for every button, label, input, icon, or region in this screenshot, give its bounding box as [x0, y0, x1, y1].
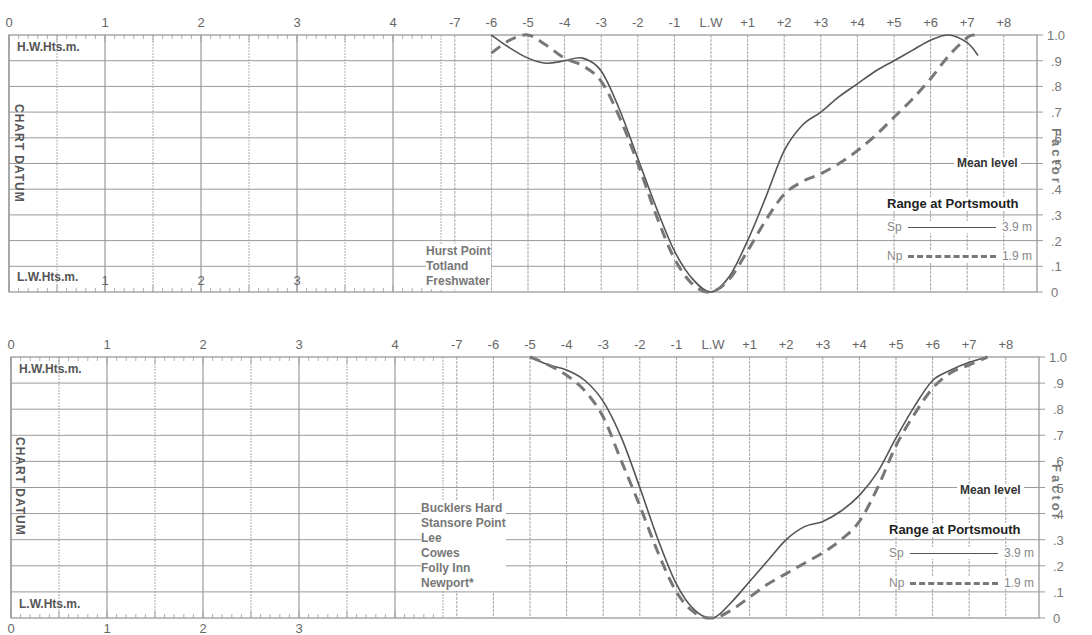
hour-tick-label: +5 — [887, 16, 902, 29]
hour-tick-label: L.W — [701, 338, 724, 351]
legend-np: Np 1.9 m — [887, 250, 1032, 262]
hw-height-tick-label: 1 — [101, 16, 108, 29]
legend-np-label: Np — [887, 250, 902, 262]
port-name: Totland — [426, 259, 491, 274]
hour-tick-label: +1 — [742, 338, 757, 351]
hour-tick-label: +4 — [852, 338, 867, 351]
factor-tick-label: 0 — [1051, 286, 1058, 299]
hour-tick-label: +5 — [889, 338, 904, 351]
factor-tick-label: .8 — [1051, 80, 1062, 93]
factor-tick-label: .7 — [1051, 106, 1062, 119]
factor-tick-label: 1.0 — [1049, 351, 1067, 364]
dashed-line-swatch — [908, 255, 996, 258]
solid-line-swatch — [910, 553, 998, 554]
hour-tick-label: +8 — [996, 16, 1011, 29]
hour-tick-label: -1 — [669, 16, 681, 29]
factor-axis-label: Factor — [1049, 128, 1064, 186]
hw-height-tick-label: 0 — [7, 338, 14, 351]
hw-height-tick-label: 2 — [197, 16, 204, 29]
hour-tick-label: -6 — [488, 338, 500, 351]
hour-tick-label: -4 — [561, 338, 573, 351]
factor-tick-label: .2 — [1051, 234, 1062, 247]
factor-tick-label: .9 — [1051, 54, 1062, 67]
port-list: Bucklers Hard Stansore Point Lee Cowes F… — [421, 501, 506, 591]
factor-tick-label: .2 — [1053, 559, 1064, 572]
hw-height-tick-label: 1 — [103, 338, 110, 351]
port-name: Folly Inn — [421, 561, 506, 576]
hour-tick-label: -4 — [559, 16, 571, 29]
legend-sp-value: 3.9 m — [1004, 547, 1034, 559]
lw-height-tick-label: 3 — [293, 274, 300, 287]
hour-tick-label: +6 — [923, 16, 938, 29]
hour-tick-label: +7 — [960, 16, 975, 29]
hour-tick-label: -5 — [522, 16, 534, 29]
port-name: Bucklers Hard — [421, 501, 506, 516]
hw-height-tick-label: 4 — [389, 16, 396, 29]
lw-height-tick-label: 2 — [199, 622, 206, 635]
hour-tick-label: +2 — [779, 338, 794, 351]
factor-tick-label: .9 — [1053, 377, 1064, 390]
hour-tick-label: -7 — [451, 338, 463, 351]
tidal-curve-chart-top: 0.1.2.3.4.5.6.7.8.91.0-7-6-5-4-3-2-1L.W+… — [0, 0, 1092, 320]
port-name: Cowes — [421, 546, 506, 561]
port-name: Hurst Point — [426, 244, 491, 259]
hw-height-tick-label: 2 — [199, 338, 206, 351]
legend-np-value: 1.9 m — [1004, 577, 1034, 589]
hour-tick-label: +6 — [925, 338, 940, 351]
hour-tick-label: -2 — [632, 16, 644, 29]
legend-np-value: 1.9 m — [1002, 250, 1032, 262]
lw-heights-label: L.W.Hts.m. — [19, 598, 80, 610]
factor-tick-label: 0 — [1053, 612, 1060, 625]
hour-tick-label: +4 — [850, 16, 865, 29]
lw-height-tick-label: 0 — [7, 622, 14, 635]
hour-tick-label: +1 — [740, 16, 755, 29]
legend-sp-value: 3.9 m — [1002, 221, 1032, 233]
hour-tick-label: -1 — [671, 338, 683, 351]
lw-height-tick-label: 2 — [197, 274, 204, 287]
hour-tick-label: -3 — [597, 338, 609, 351]
mean-level-label: Mean level — [957, 484, 1024, 496]
tidal-curve-chart-bottom: 0.1.2.3.4.5.6.7.8.91.0-7-6-5-4-3-2-1L.W+… — [0, 320, 1092, 635]
legend-title: Range at Portsmouth — [887, 523, 1022, 536]
factor-tick-label: .1 — [1053, 585, 1064, 598]
factor-axis-label: Factor — [1049, 464, 1064, 522]
port-list: Hurst Point Totland Freshwater — [426, 244, 491, 289]
hour-tick-label: +8 — [998, 338, 1013, 351]
hw-height-tick-label: 3 — [295, 338, 302, 351]
hour-tick-label: L.W — [699, 16, 722, 29]
hour-tick-label: -6 — [486, 16, 498, 29]
hw-height-tick-label: 3 — [293, 16, 300, 29]
hour-tick-label: +7 — [962, 338, 977, 351]
factor-tick-label: .8 — [1053, 403, 1064, 416]
legend-title: Range at Portsmouth — [885, 197, 1020, 210]
dashed-line-swatch — [910, 582, 998, 585]
legend-sp: Sp 3.9 m — [889, 547, 1034, 559]
chart-plot-area — [0, 0, 1092, 320]
hw-heights-label: H.W.Hts.m. — [17, 41, 80, 53]
hw-heights-label: H.W.Hts.m. — [19, 363, 82, 375]
lw-heights-label: L.W.Hts.m. — [17, 271, 78, 283]
factor-tick-label: .7 — [1053, 429, 1064, 442]
factor-tick-label: .3 — [1051, 208, 1062, 221]
hour-tick-label: -7 — [449, 16, 461, 29]
port-name: Lee — [421, 531, 506, 546]
chart-datum-label: CHART DATUM — [13, 437, 27, 587]
chart-datum-label: CHART DATUM — [12, 104, 26, 254]
hw-height-tick-label: 0 — [5, 16, 12, 29]
legend-sp-label: Sp — [887, 221, 902, 233]
legend-np: Np 1.9 m — [889, 577, 1034, 589]
hour-tick-label: -3 — [595, 16, 607, 29]
hour-tick-label: -5 — [524, 338, 536, 351]
factor-tick-label: .3 — [1053, 533, 1064, 546]
hour-tick-label: +3 — [813, 16, 828, 29]
legend-sp: Sp 3.9 m — [887, 221, 1032, 233]
hour-tick-label: +2 — [777, 16, 792, 29]
lw-height-tick-label: 1 — [101, 274, 108, 287]
factor-tick-label: .1 — [1051, 260, 1062, 273]
port-name: Freshwater — [426, 274, 491, 289]
factor-tick-label: 1.0 — [1047, 29, 1065, 42]
port-name: Stansore Point — [421, 516, 506, 531]
hour-tick-label: +3 — [815, 338, 830, 351]
legend-np-label: Np — [889, 577, 904, 589]
solid-line-swatch — [908, 227, 996, 228]
